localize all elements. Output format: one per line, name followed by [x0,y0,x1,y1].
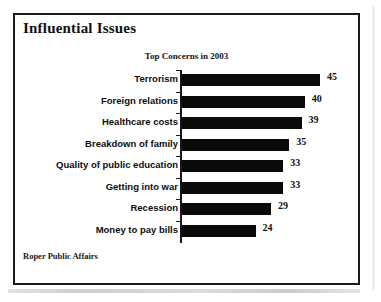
chart-figure: Influential Issues Top Concerns in 2003 … [0,0,381,302]
axis-tick [176,70,181,71]
axis-tick [176,92,181,93]
bar [182,74,320,86]
bar [182,139,289,151]
scan-edge-right [372,6,375,290]
axis-tick [176,156,181,157]
bar-value-label: 35 [296,136,306,147]
axis-tick [176,113,181,114]
bar [182,182,283,194]
bar-row: Quality of public education33 [15,156,358,177]
bar-value-label: 39 [309,114,319,125]
category-label: Money to pay bills [18,224,178,236]
bar-value-label: 45 [327,71,337,82]
bar [182,117,302,129]
category-label: Getting into war [18,181,178,193]
source-attribution: Roper Public Affairs [23,251,98,261]
axis-tick [176,178,181,179]
title-divider [18,41,357,42]
category-label: Breakdown of family [18,138,178,150]
category-label: Quality of public education [18,159,178,171]
category-label: Terrorism [18,73,178,85]
chart-title: Top Concerns in 2003 [15,51,358,61]
category-label: Foreign relations [18,95,178,107]
bar-value-label: 33 [290,179,300,190]
scan-edge-bottom [8,289,360,293]
axis-tick [176,199,181,200]
bar-value-label: 40 [312,93,322,104]
bar-row: Foreign relations40 [15,92,358,113]
panel-title: Influential Issues [23,20,136,37]
bar-row: Money to pay bills24 [15,221,358,242]
bar-row: Recession29 [15,199,358,220]
bar-value-label: 29 [278,200,288,211]
chart-panel: Influential Issues Top Concerns in 2003 … [13,13,360,285]
bar-row: Getting into war33 [15,178,358,199]
bar-value-label: 33 [290,157,300,168]
bar-row: Healthcare costs39 [15,113,358,134]
bar-value-label: 24 [263,222,273,233]
bar [182,203,271,215]
bar [182,96,305,108]
plot-area: Terrorism45Foreign relations40Healthcare… [15,70,358,246]
category-label: Healthcare costs [18,116,178,128]
category-label: Recession [18,202,178,214]
bar [182,225,256,237]
bar [182,160,283,172]
bar-row: Terrorism45 [15,70,358,91]
bar-row: Breakdown of family35 [15,135,358,156]
axis-tick [176,135,181,136]
axis-tick [176,221,181,222]
